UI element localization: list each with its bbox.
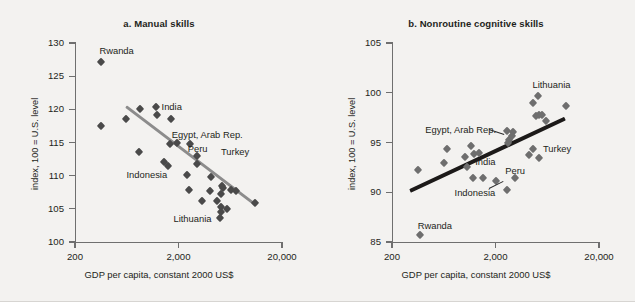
data-point <box>167 115 176 124</box>
y-tick-label: 120 <box>0 103 64 114</box>
x-tick-label: 2,000 <box>166 251 190 262</box>
panel-a-manual-skills: a. Manual skills index, 100 = U.S. level… <box>0 0 318 302</box>
point-label-turkey: Turkey <box>543 144 571 153</box>
x-tick <box>598 242 599 248</box>
y-tick-label: 115 <box>0 137 64 148</box>
data-point <box>462 163 471 172</box>
panel-b-x-axis-label: GDP per capita, constant 2000 US$ <box>317 269 635 280</box>
data-point-rwanda <box>97 57 106 66</box>
x-tick-label: 20,000 <box>267 251 296 262</box>
data-point <box>529 98 538 107</box>
data-point <box>503 186 512 195</box>
y-tick-label: 105 <box>317 37 381 48</box>
x-tick-label: 200 <box>384 251 400 262</box>
point-label-rwanda: Rwanda <box>418 221 452 230</box>
y-tick-label: 90 <box>317 186 381 197</box>
y-tick-label: 85 <box>317 236 381 247</box>
y-tick-label: 105 <box>0 203 64 214</box>
data-point <box>440 159 449 168</box>
figure-two-panel-scatter: a. Manual skills index, 100 = U.S. level… <box>0 0 635 302</box>
point-label-peru: Peru <box>505 166 525 175</box>
data-point <box>121 114 130 123</box>
data-point <box>97 122 106 131</box>
y-tick-label: 125 <box>0 70 64 81</box>
y-tick-label: 100 <box>0 236 64 247</box>
x-tick-label: 2,000 <box>483 251 507 262</box>
data-point <box>478 174 487 183</box>
point-label-peru: Peru <box>188 144 208 153</box>
data-point <box>182 171 191 180</box>
x-tick <box>281 242 282 248</box>
x-tick-label: 200 <box>67 251 83 262</box>
point-label-lithuania: Lithuania <box>532 80 570 89</box>
x-tick-label: 20,000 <box>584 251 613 262</box>
data-point <box>535 154 544 163</box>
y-tick-label: 130 <box>0 37 64 48</box>
x-tick <box>391 242 392 248</box>
data-point <box>443 145 452 154</box>
x-tick <box>495 242 496 248</box>
data-point <box>135 147 144 156</box>
point-label-india: India <box>475 157 495 166</box>
data-point <box>216 214 225 223</box>
panel-a-title: a. Manual skills <box>0 18 318 29</box>
data-point <box>414 166 423 175</box>
y-tick-label: 95 <box>317 137 381 148</box>
x-tick <box>74 242 75 248</box>
y-tick-label: 110 <box>0 170 64 181</box>
data-point-rwanda <box>415 231 424 240</box>
y-tick-label: 100 <box>317 87 381 98</box>
panel-a-x-axis-label: GDP per capita, constant 2000 US$ <box>0 269 318 280</box>
point-label-rwanda: Rwanda <box>99 46 133 55</box>
point-label-indonesia: Indonesia <box>126 170 167 179</box>
data-point <box>205 187 214 196</box>
point-label-lithuania: Lithuania <box>173 214 211 223</box>
point-label-india: India <box>162 102 182 111</box>
panel-b-nonroutine-cognitive-skills: b. Nonroutine cognitive skills index, 10… <box>317 0 635 302</box>
point-label-turkey: Turkey <box>221 147 249 156</box>
point-label-egypt-arab-rep: Egypt, Arab Rep. <box>172 130 243 139</box>
data-point <box>198 196 207 205</box>
panel-b-title: b. Nonroutine cognitive skills <box>317 18 635 29</box>
data-point <box>251 198 260 207</box>
point-label-egypt-arab-rep: Egypt, Arab Rep. <box>425 125 496 134</box>
data-point <box>184 185 193 194</box>
point-label-indonesia: Indonesia <box>455 188 496 197</box>
data-point-indonesia <box>468 174 477 183</box>
data-point <box>561 101 570 110</box>
data-point-lithuania <box>534 91 543 100</box>
x-tick <box>178 242 179 248</box>
data-point <box>153 110 162 119</box>
